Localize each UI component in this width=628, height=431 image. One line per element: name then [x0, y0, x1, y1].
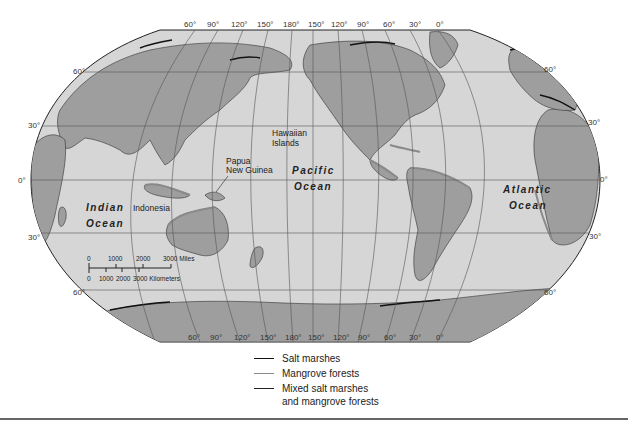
top-longitude-labels: 60° 90° 120° 150° 180° 150° 120° 90° 60°… [184, 20, 444, 29]
scale-miles-1000: 1000 [108, 255, 123, 262]
scale-miles-2000: 2000 [136, 255, 151, 262]
pacific-ocean-label-1: Pacific [292, 165, 335, 176]
legend-item-salt-marshes: Salt marshes [254, 352, 379, 367]
scale-km-3000: 3000 Kilometers [133, 275, 181, 282]
lon-label: 90° [358, 333, 370, 342]
scale-km-2000: 2000 [116, 275, 131, 282]
scale-miles-0: 0 [87, 255, 91, 262]
lon-label: 30° [409, 333, 421, 342]
map-legend: Salt marshes Mangrove forests Mixed salt… [254, 352, 379, 410]
lon-label: 60° [188, 333, 200, 342]
lon-label: 120° [331, 20, 348, 29]
lon-label: 150° [308, 333, 325, 342]
lat-label: 30° [588, 118, 600, 127]
lon-label: 90° [357, 20, 369, 29]
mangrove-line-icon [254, 373, 274, 374]
lon-label: 120° [231, 20, 248, 29]
lon-label: 60° [383, 20, 395, 29]
legend-item-mixed: Mixed salt marshes and mangrove forests [254, 382, 379, 410]
scale-miles-3000: 3000 Miles [163, 255, 195, 262]
indian-ocean-label-2: Ocean [86, 218, 124, 229]
atlantic-ocean-label-1: Atlantic [502, 184, 552, 195]
lon-label: 150° [257, 20, 274, 29]
atlantic-ocean-label-2: Ocean [509, 200, 547, 211]
lat-label: 30° [28, 121, 40, 130]
indian-ocean-label-1: Indian [86, 202, 124, 213]
lon-label: 120° [234, 333, 251, 342]
lon-label: 30° [409, 20, 421, 29]
legend-item-mangrove-forests: Mangrove forests [254, 367, 379, 382]
legend-label: Mangrove forests [282, 367, 359, 380]
lat-label: 30° [589, 232, 601, 241]
lat-label: 60° [544, 65, 556, 74]
lon-label: 120° [333, 333, 350, 342]
legend-label: Salt marshes [282, 352, 340, 365]
lon-label: 90° [207, 20, 219, 29]
lon-label: 60° [184, 20, 196, 29]
lon-label: 150° [308, 20, 325, 29]
lon-label: 0° [436, 20, 444, 29]
lat-label: 60° [73, 67, 85, 76]
pacific-ocean-label-2: Ocean [294, 181, 332, 192]
lon-label: 180° [285, 333, 302, 342]
lon-label: 150° [260, 333, 277, 342]
lat-label: 0° [18, 176, 26, 185]
salt-marsh-line-icon [254, 358, 274, 359]
hawaii-label-1: Hawaiian [272, 128, 307, 138]
mixed-line-icon [254, 388, 274, 389]
papua-label-2: New Guinea [226, 165, 273, 175]
hawaii-label-2: Islands [272, 138, 299, 148]
lat-label: 60° [544, 288, 556, 297]
lon-label: 180° [283, 20, 300, 29]
scale-km-1000: 1000 [99, 275, 114, 282]
lon-label: 90° [210, 333, 222, 342]
legend-label-line1: Mixed salt marshes [282, 383, 368, 394]
indonesia-label: Indonesia [133, 203, 170, 213]
lon-label: 60° [384, 333, 396, 342]
legend-label: Mixed salt marshes and mangrove forests [282, 382, 379, 408]
lon-label: 0° [436, 333, 444, 342]
legend-label-line2: and mangrove forests [282, 396, 379, 407]
lat-label: 0° [600, 175, 608, 184]
lat-label: 30° [28, 233, 40, 242]
scale-km-0: 0 [87, 275, 91, 282]
lat-label: 60° [73, 288, 85, 297]
bottom-divider [0, 418, 628, 420]
